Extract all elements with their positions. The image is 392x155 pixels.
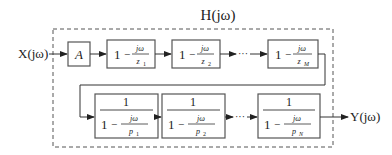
numerator: jω xyxy=(135,44,144,53)
minus-sign: − xyxy=(124,48,130,60)
output-label: Y(jω) xyxy=(350,109,380,124)
minus-sign: − xyxy=(274,118,280,130)
ellipsis-row1: ··· xyxy=(238,48,248,59)
zero-block-1: 1 − jω z 1 xyxy=(107,40,155,68)
ellipsis-row2: ··· xyxy=(235,111,245,122)
zero-block-M: 1 − jω z M xyxy=(268,40,318,68)
subscript: 1 xyxy=(136,131,139,137)
one-term: 1 xyxy=(179,47,186,62)
minus-sign: − xyxy=(111,118,117,130)
numerator: jω xyxy=(200,44,209,53)
denominator: p xyxy=(128,127,133,136)
pole-block-2: 1 1 − jω p 2 xyxy=(162,94,225,138)
one-term: 1 xyxy=(168,117,175,132)
minus-sign: − xyxy=(178,118,184,130)
gain-block: A xyxy=(68,42,90,66)
numerator: jω xyxy=(196,114,205,123)
numerator: jω xyxy=(292,114,301,123)
one-term: 1 xyxy=(264,117,271,132)
pole-block-1: 1 1 − jω p 1 xyxy=(95,94,158,138)
numerator-one: 1 xyxy=(123,95,129,109)
subscript: 1 xyxy=(143,61,146,67)
one-term: 1 xyxy=(114,47,121,62)
numerator: jω xyxy=(297,44,306,53)
denominator: p xyxy=(291,127,296,136)
subscript: 2 xyxy=(203,131,206,137)
subscript: M xyxy=(303,61,310,67)
one-term: 1 xyxy=(101,117,108,132)
zero-block-2: 1 − jω z 2 xyxy=(172,40,220,68)
denominator: p xyxy=(195,127,200,136)
system-title: H(jω) xyxy=(201,7,236,24)
numerator-one: 1 xyxy=(190,95,196,109)
one-term: 1 xyxy=(275,47,282,62)
numerator: jω xyxy=(129,114,138,123)
block-diagram: H(jω) X(jω) A 1 − jω z 1 1 − jω z 2 ··· … xyxy=(0,0,392,155)
subscript: 2 xyxy=(208,61,211,67)
minus-sign: − xyxy=(189,48,195,60)
input-label: X(jω) xyxy=(18,46,48,61)
gain-label: A xyxy=(74,47,83,62)
pole-block-N: 1 1 − jω p N xyxy=(258,94,320,138)
minus-sign: − xyxy=(285,48,291,60)
numerator-one: 1 xyxy=(286,95,292,109)
